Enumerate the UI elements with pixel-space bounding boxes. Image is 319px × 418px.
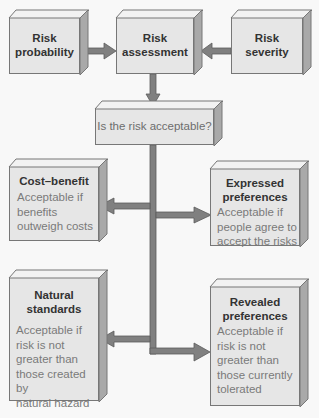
- box-top-bevel: [210, 279, 309, 287]
- question-text: Is the risk acceptable?: [96, 120, 213, 132]
- node-title-line1: Natural: [10, 288, 98, 302]
- box-top-bevel: [210, 161, 309, 169]
- arrow-probability-to-assessment: [87, 43, 116, 59]
- box-side-bevel: [303, 10, 312, 75]
- node-title-line1: Risk: [117, 31, 193, 45]
- node-risk-assessment: Risk assessment: [116, 17, 194, 74]
- node-title-line1: Revealed: [211, 295, 299, 309]
- node-natural-standards: Natural standards Acceptable if risk is …: [9, 277, 99, 401]
- node-title-line1: Expressed: [211, 176, 299, 190]
- box-top-bevel: [95, 101, 223, 109]
- desc-line: greater than: [16, 352, 98, 367]
- box-top-bevel: [9, 159, 108, 167]
- node-title-line2: standards: [10, 302, 98, 316]
- node-title-line2: assessment: [117, 45, 193, 59]
- arrow-to-revealed: [150, 343, 210, 361]
- desc-line: people agree to: [217, 220, 297, 235]
- desc-line: risk is not: [217, 339, 292, 354]
- box-top-bevel: [116, 10, 203, 18]
- node-title: Cost–benefit: [10, 174, 98, 188]
- desc-line: risk is not: [16, 338, 98, 353]
- box-side-bevel: [194, 10, 203, 75]
- box-top-bevel: [231, 10, 312, 18]
- node-title-line2: preferences: [211, 309, 299, 323]
- box-side-bevel: [300, 161, 309, 247]
- decision-spine: [150, 145, 156, 354]
- node-title-line2: severity: [232, 45, 302, 59]
- desc-line: outweigh costs: [17, 219, 93, 234]
- node-revealed-preferences: Revealed preferences Acceptable if risk …: [210, 286, 300, 406]
- box-side-bevel: [99, 159, 108, 242]
- node-question: Is the risk acceptable?: [95, 108, 214, 145]
- desc-line: Acceptable if: [16, 323, 98, 338]
- node-title-line1: Risk: [10, 31, 79, 45]
- node-cost-benefit: Cost–benefit Acceptable if benefits outw…: [9, 166, 99, 241]
- box-side-bevel: [300, 279, 309, 407]
- box-side-bevel: [214, 101, 223, 146]
- node-title-line2: probability: [10, 45, 79, 59]
- desc-line: benefits: [17, 205, 93, 220]
- arrow-severity-to-assessment: [201, 43, 231, 59]
- desc-line: Acceptable if: [217, 324, 292, 339]
- desc-line: those currently: [217, 368, 292, 383]
- node-title-line2: preferences: [211, 190, 299, 204]
- desc-line: tolerated: [217, 382, 292, 397]
- box-top-bevel: [9, 270, 108, 278]
- node-risk-severity: Risk severity: [231, 17, 303, 74]
- desc-line: greater than: [217, 353, 292, 368]
- desc-line: accept the risks: [217, 234, 297, 249]
- node-expressed-preferences: Expressed preferences Acceptable if peop…: [210, 168, 300, 246]
- arrow-to-expressed: [156, 207, 211, 223]
- desc-line: Acceptable if: [217, 205, 297, 220]
- desc-line: Acceptable if: [17, 190, 93, 205]
- desc-line: natural hazard: [16, 396, 98, 411]
- box-side-bevel: [80, 10, 89, 75]
- box-side-bevel: [99, 270, 108, 402]
- node-risk-probability: Risk probability: [9, 17, 80, 74]
- node-title-line1: Risk: [232, 31, 302, 45]
- box-top-bevel: [9, 10, 89, 18]
- desc-line: those created by: [16, 367, 98, 396]
